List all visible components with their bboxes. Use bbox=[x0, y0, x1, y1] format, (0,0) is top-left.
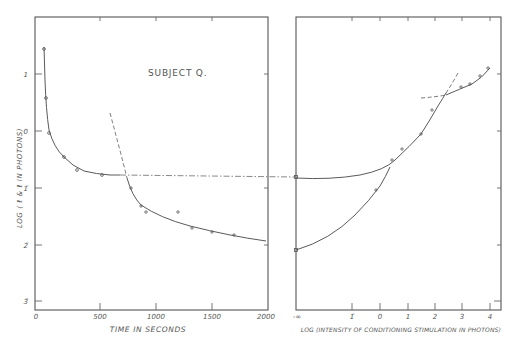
left-xtick-label: 1000 bbox=[147, 313, 165, 321]
upper-threshold-curve bbox=[296, 93, 446, 179]
upper-threshold-dashed-extension bbox=[446, 73, 458, 93]
left-panel: 1 0 1̄ 2̄ 3̄ 0 500 1000 1500 2000 Time i… bbox=[16, 17, 296, 334]
left-ytick-label: 0 bbox=[24, 128, 29, 136]
second-branch-dashed bbox=[110, 113, 127, 178]
right-panel-points bbox=[295, 67, 490, 252]
right-xtick-label: 2 bbox=[433, 313, 438, 321]
left-xtick-label: 500 bbox=[93, 313, 107, 321]
high-intensity-curve bbox=[446, 68, 490, 95]
right-xtick-label: 4 bbox=[488, 313, 492, 321]
left-ytick-label: 1̄ bbox=[24, 185, 29, 193]
plateau-extension-line bbox=[120, 175, 296, 177]
right-x-axis-label: Log (intensity of conditioning stimulati… bbox=[301, 326, 501, 333]
left-ytick-label: 1 bbox=[24, 71, 28, 79]
second-adaptation-curve bbox=[127, 178, 266, 241]
right-xtick-label: 0 bbox=[378, 313, 383, 321]
left-xtick-label: 1500 bbox=[203, 313, 221, 321]
left-xtick-label: 2000 bbox=[257, 313, 275, 321]
right-xtick-label: 1 bbox=[406, 313, 410, 321]
right-panel: -∞ 1̄ 0 1 2 3 4 Log (intensity of condit… bbox=[293, 17, 501, 333]
high-intensity-dashed bbox=[421, 95, 446, 98]
second-adaptation-points bbox=[130, 187, 235, 236]
right-xtick-label: 1̄ bbox=[350, 313, 355, 321]
lower-threshold-curve bbox=[296, 167, 390, 250]
right-xtick-label: 3 bbox=[460, 313, 464, 321]
left-x-axis-label: Time in Seconds bbox=[110, 325, 186, 334]
left-ytick-label: 3̄ bbox=[24, 298, 29, 306]
initial-adaptation-curve bbox=[44, 47, 120, 175]
left-xtick-label: 0 bbox=[34, 313, 39, 321]
initial-adaptation-points bbox=[43, 48, 104, 177]
right-plot-frame bbox=[296, 17, 501, 310]
left-y-axis-label: Log ( ℓ & ℓ in photons) bbox=[16, 128, 24, 228]
left-ytick-label: 2̄ bbox=[24, 242, 29, 250]
left-plot-frame bbox=[35, 17, 268, 310]
right-xtick-label: -∞ bbox=[293, 313, 302, 321]
figure: 1 0 1̄ 2̄ 3̄ 0 500 1000 1500 2000 Time i… bbox=[0, 0, 519, 344]
chart-title: Subject Q. bbox=[148, 68, 207, 78]
